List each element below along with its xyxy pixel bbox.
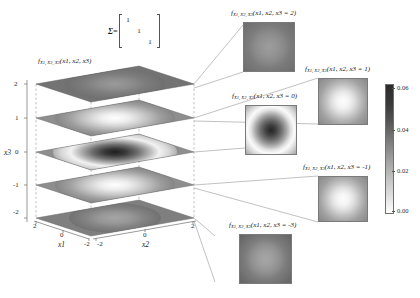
slice-args: (x1, x2, x3 = -1) bbox=[325, 163, 371, 171]
slice-panel-x3-0[interactable] bbox=[245, 105, 297, 155]
slice-panel-x3-m1[interactable] bbox=[318, 176, 368, 222]
main-function-label: fX1, X2, X3(x1, x2, x3) bbox=[38, 58, 91, 65]
colorbar-label-006: 0.06 bbox=[397, 84, 408, 91]
slice-args: (x1, x2, x3 = -3) bbox=[251, 221, 297, 229]
slice-label-x3-m3: fX1, X2, X3(x1, x2, x3 = -3) bbox=[229, 222, 296, 229]
x2-tick-2: 2 bbox=[191, 222, 195, 230]
main-function-args: (x1, x2, x3) bbox=[60, 57, 91, 65]
slice-args: (x1, x2, x3 = 1) bbox=[327, 65, 370, 73]
slice-sub: X1, X2, X3 bbox=[305, 166, 325, 171]
slice-plane-x3-m1 bbox=[36, 166, 194, 204]
slice-label-x3-0: fX1, X2, X3(x1, x2, x3 = 0) bbox=[232, 93, 297, 100]
x2-tick-m2: -2 bbox=[97, 240, 103, 248]
x2-tick-0: 0 bbox=[143, 231, 147, 239]
z-tick-m1: -1 bbox=[13, 181, 19, 189]
slice-sub: X1, X2, X3 bbox=[231, 224, 251, 229]
main-function-subscript: X1, X2, X3 bbox=[40, 60, 60, 65]
x1-tick-2: 2 bbox=[33, 222, 37, 230]
colorbar-label-004: 0.04 bbox=[397, 126, 408, 133]
slice-plane-x3-2 bbox=[36, 66, 194, 102]
z-tick-2: 2 bbox=[14, 80, 18, 88]
x1-tick-0: 0 bbox=[60, 231, 64, 239]
slice-label-x3-2: fX1, X2, X3(x1, x2, x3 = 2) bbox=[231, 10, 296, 17]
colorbar-label-000: 0.00 bbox=[397, 207, 408, 214]
slice-sub: X1, X2, X3 bbox=[307, 68, 327, 73]
colorbar-label-002: 0.02 bbox=[397, 167, 408, 174]
slice-label-x3-1: fX1, X2, X3(x1, x2, x3 = 1) bbox=[305, 66, 370, 73]
x1-tick-m2: -2 bbox=[84, 240, 90, 248]
colorbar-tick-mark bbox=[392, 88, 395, 89]
slice-label-x3-m1: fX1, X2, X3(x1, x2, x3 = -1) bbox=[303, 164, 370, 171]
slice-plane-x3-0 bbox=[36, 132, 194, 172]
figure-vector-layer bbox=[0, 0, 420, 298]
colorbar[interactable] bbox=[385, 84, 394, 214]
x2-axis-label: x2 bbox=[142, 240, 149, 249]
colorbar-tick-mark bbox=[392, 130, 395, 131]
z-tick-m2: -2 bbox=[13, 208, 19, 216]
slice-args: (x1, x2, x3 = 2) bbox=[253, 9, 296, 17]
colorbar-tick-mark bbox=[392, 211, 395, 212]
colorbar-tick-mark bbox=[392, 171, 395, 172]
z-axis bbox=[24, 80, 27, 222]
slice-plane-x3-1 bbox=[36, 99, 194, 137]
slice-panel-x3-1[interactable] bbox=[318, 78, 368, 125]
slice-sub: X1, X2, X3 bbox=[233, 12, 253, 17]
x1-axis-label: x1 bbox=[58, 240, 65, 249]
z-tick-1: 1 bbox=[15, 114, 19, 122]
slice-args: (x1, x2, x3 = 0) bbox=[254, 92, 297, 100]
z-axis-label: x3 bbox=[4, 148, 11, 157]
z-tick-0: 0 bbox=[15, 148, 19, 156]
slice-panel-x3-m3[interactable] bbox=[239, 234, 292, 284]
figure-canvas: Σ= 1 1 1 bbox=[0, 0, 420, 298]
slice-sub: X1, X2, X3 bbox=[234, 95, 254, 100]
slice-panel-x3-2[interactable] bbox=[243, 22, 295, 72]
